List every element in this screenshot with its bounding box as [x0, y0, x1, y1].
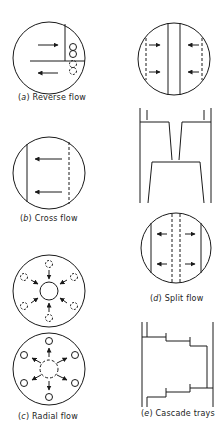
caption-letter: c [21, 412, 26, 421]
caption-title: Reverse flow [33, 93, 87, 102]
caption-split-flow: (d) Split flow [150, 294, 203, 303]
caption-title: Cascade trays [156, 409, 215, 418]
cross-flow-diagram [13, 137, 85, 209]
radial-flow-outward-diagram [13, 333, 85, 405]
caption-letter: a [21, 93, 26, 102]
caption-letter: e [144, 409, 149, 418]
cascade-trays-diagram [142, 322, 213, 407]
split-flow-diagram [141, 213, 211, 283]
caption-letter: b [23, 214, 28, 223]
radial-flow-inward-diagram [13, 255, 85, 327]
reverse-flow-diagram [13, 22, 85, 94]
caption-reverse-flow: (a) Reverse flow [18, 93, 86, 102]
caption-title: Split flow [165, 294, 204, 303]
caption-title: Cross flow [35, 214, 78, 223]
caption-title: Radial flow [32, 412, 78, 421]
caption-letter: d [153, 294, 158, 303]
caption-cross-flow: (b) Cross flow [20, 214, 78, 223]
tray-elevation-diagram [140, 108, 211, 203]
caption-cascade-trays: (e) Cascade trays [141, 409, 215, 418]
center-downcomer-diagram [138, 23, 210, 95]
caption-radial-flow: (c) Radial flow [18, 412, 78, 421]
